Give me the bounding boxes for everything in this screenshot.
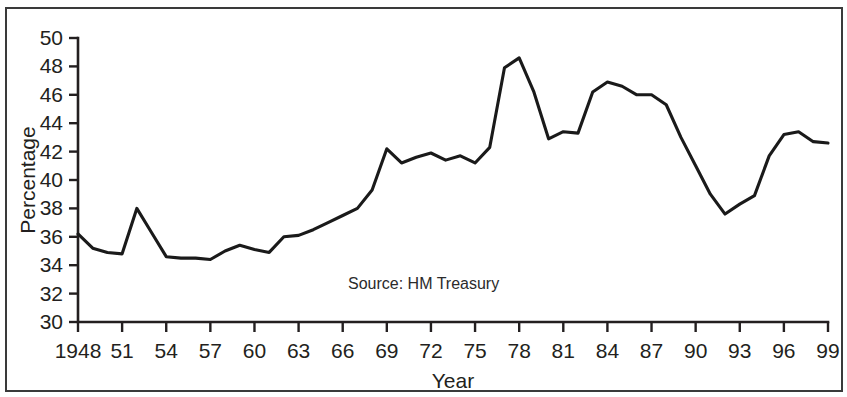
x-tick-label: 87: [640, 339, 663, 362]
x-tick-label: 99: [816, 339, 839, 362]
chart-annotations: Source: HM Treasury: [348, 275, 499, 292]
y-tick-label: 46: [40, 83, 63, 106]
y-tick-label: 38: [40, 196, 63, 219]
x-tick-label: 60: [243, 339, 266, 362]
y-tick-label: 30: [40, 310, 63, 333]
y-axis-ticks: [69, 38, 78, 322]
y-tick-label: 50: [40, 26, 63, 49]
x-axis-title: Year: [432, 369, 474, 392]
x-tick-label: 84: [596, 339, 620, 362]
source-annotation: Source: HM Treasury: [348, 275, 499, 292]
figure-border: [6, 8, 842, 391]
x-tick-label: 1948: [55, 339, 102, 362]
line-chart: 3032343638404244464850 19485154576063666…: [0, 0, 847, 397]
y-tick-label: 40: [40, 168, 63, 191]
x-axis-tick-labels: 19485154576063666972757881848790939699: [55, 339, 840, 362]
x-tick-label: 81: [552, 339, 575, 362]
x-tick-label: 54: [155, 339, 179, 362]
x-tick-label: 75: [463, 339, 486, 362]
x-tick-label: 72: [419, 339, 442, 362]
y-tick-label: 34: [40, 253, 64, 276]
x-tick-label: 96: [772, 339, 795, 362]
y-tick-label: 36: [40, 225, 63, 248]
x-tick-label: 93: [728, 339, 751, 362]
y-tick-label: 42: [40, 140, 63, 163]
y-tick-label: 44: [40, 111, 64, 134]
data-series-line: [78, 58, 828, 260]
y-axis-tick-labels: 3032343638404244464850: [40, 26, 64, 333]
y-axis-title: Percentage: [16, 126, 39, 233]
x-tick-label: 69: [375, 339, 398, 362]
x-tick-label: 51: [110, 339, 133, 362]
x-tick-label: 63: [287, 339, 310, 362]
x-tick-label: 78: [507, 339, 530, 362]
x-tick-label: 90: [684, 339, 707, 362]
x-tick-label: 66: [331, 339, 354, 362]
x-axis-ticks: [78, 322, 828, 332]
y-tick-label: 32: [40, 282, 63, 305]
x-tick-label: 57: [199, 339, 222, 362]
chart-figure: 3032343638404244464850 19485154576063666…: [0, 0, 847, 397]
y-tick-label: 48: [40, 54, 63, 77]
